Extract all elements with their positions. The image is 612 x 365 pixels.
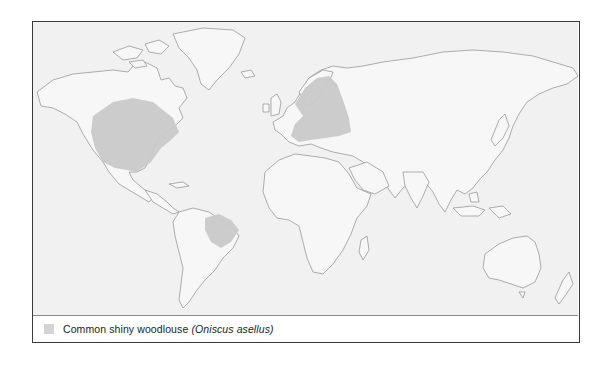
world-map (33, 22, 578, 316)
map-legend: Common shiny woodlouse (Oniscus asellus) (33, 316, 578, 341)
legend-swatch (44, 324, 54, 334)
australia (483, 236, 541, 288)
map-frame: Common shiny woodlouse (Oniscus asellus) (32, 21, 580, 343)
legend-common-name: Common shiny woodlouse (63, 323, 188, 335)
greenland (173, 28, 245, 90)
legend-label: Common shiny woodlouse (Oniscus asellus) (63, 323, 274, 335)
legend-scientific-name: (Oniscus asellus) (191, 323, 273, 335)
world-map-svg (33, 22, 578, 315)
